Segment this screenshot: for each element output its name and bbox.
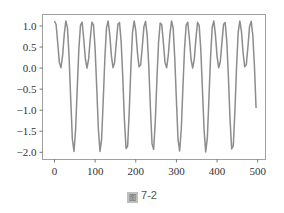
x-tick-label: 100: [87, 165, 104, 177]
x-axis: 0100200300400500: [52, 160, 267, 177]
figure-caption: 图7-2: [0, 189, 284, 203]
y-tick-label: −1.0: [17, 104, 37, 116]
x-tick-label: 400: [209, 165, 226, 177]
y-tick-label: −1.5: [17, 125, 37, 137]
plot-area: [55, 21, 257, 152]
x-tick-label: 0: [52, 165, 58, 177]
y-tick-label: 0.5: [23, 41, 37, 53]
x-tick-label: 200: [128, 165, 145, 177]
line-chart: 0100200300400500 1.00.50.0−0.5−1.0−1.5−2…: [0, 0, 284, 213]
y-tick-label: −0.5: [17, 83, 37, 95]
y-tick-label: −2.0: [17, 146, 37, 158]
y-tick-label: 1.0: [23, 20, 37, 32]
y-axis: 1.00.50.0−0.5−1.0−1.5−2.0: [17, 20, 43, 158]
series-line: [55, 21, 257, 152]
x-tick-label: 500: [249, 165, 266, 177]
caption-figure-glyph: 图: [127, 192, 138, 203]
x-tick-label: 300: [168, 165, 185, 177]
y-tick-label: 0.0: [23, 62, 37, 74]
caption-number: 7-2: [141, 189, 157, 201]
